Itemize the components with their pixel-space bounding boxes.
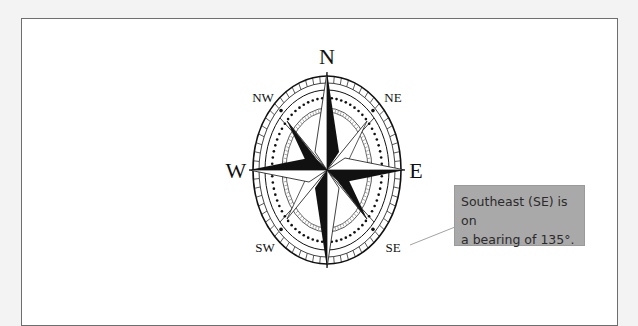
label-southwest: SW (255, 240, 275, 255)
label-northwest: NW (252, 90, 274, 105)
label-west: W (226, 158, 247, 183)
label-north: N (319, 44, 335, 69)
callout-line-1: Southeast (SE) is on (461, 192, 578, 230)
label-southeast: SE (385, 240, 400, 255)
callout-line-2: a bearing of 135°. (461, 230, 578, 249)
callout-box: Southeast (SE) is on a bearing of 135°. (454, 185, 585, 246)
callout-leader-line (410, 227, 455, 245)
label-south: S (321, 275, 333, 276)
label-northeast: NE (384, 90, 401, 105)
label-east: E (409, 158, 422, 183)
